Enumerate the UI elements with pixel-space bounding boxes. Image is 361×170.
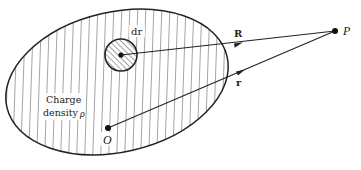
origin-point-O (105, 125, 111, 131)
label-r: r (236, 77, 242, 88)
label-O: O (103, 133, 112, 147)
label-rho: ρ (79, 108, 85, 119)
label-R: R (234, 28, 243, 39)
arrow-R-icon (234, 42, 243, 47)
charge-distribution-diagram: P O dr R r Charge density ρ (0, 0, 361, 170)
label-dr: dr (131, 26, 142, 37)
label-P: P (342, 24, 351, 38)
label-density: density (43, 107, 79, 118)
arrow-r-icon (236, 70, 245, 76)
label-charge: Charge (46, 94, 82, 105)
field-point-P (332, 28, 338, 34)
charge-region (0, 0, 243, 170)
